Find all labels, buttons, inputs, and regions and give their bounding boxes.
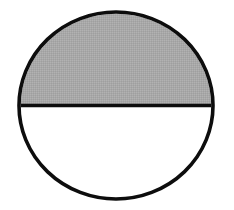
fraction-circle-figure: Circle divided in half by a horizontal d… xyxy=(0,0,234,210)
fraction-circle-graphic xyxy=(0,0,234,210)
